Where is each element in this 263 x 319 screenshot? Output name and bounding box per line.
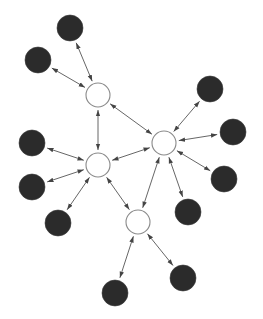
filled-node-d6 <box>175 199 201 225</box>
network-diagram <box>0 0 263 319</box>
filled-node-d2 <box>25 47 51 73</box>
filled-node-d1 <box>57 15 83 41</box>
filled-node-d8 <box>19 174 45 200</box>
filled-node-d5 <box>211 166 237 192</box>
hollow-node-h3 <box>86 153 110 177</box>
hollow-node-h2 <box>152 131 176 155</box>
filled-node-d10 <box>102 280 128 306</box>
filled-node-d11 <box>170 265 196 291</box>
filled-node-d7 <box>19 130 45 156</box>
hollow-node-h4 <box>126 210 150 234</box>
filled-node-d3 <box>197 76 223 102</box>
hollow-node-h1 <box>86 83 110 107</box>
filled-node-d9 <box>45 210 71 236</box>
filled-node-d4 <box>220 119 246 145</box>
